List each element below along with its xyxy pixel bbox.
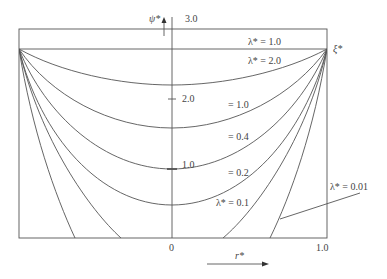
x-tick-1: 1.0 (316, 243, 329, 253)
y-tick-3: 3.0 (185, 14, 198, 24)
label-lambda-2.0: λ* = 2.0 (248, 56, 281, 66)
y-axis-label: ψ* (149, 14, 160, 24)
y-tick-2: 2.0 (182, 94, 195, 104)
curve-lambda-0.01 (19, 49, 327, 238)
x-tick-0: 0 (169, 243, 174, 253)
y-tick-1: 1.0 (182, 160, 195, 170)
r-arrow-head (262, 262, 269, 267)
curve-lambda-0.1 (19, 49, 327, 238)
label-lambda-eq-1.0: = 1.0 (228, 100, 249, 110)
curve-lambda-0.2 (19, 49, 327, 205)
psi-arrow-head (162, 17, 167, 23)
label-lambda-0.2: = 0.2 (228, 168, 249, 178)
label-lambda-0.4: = 0.4 (228, 132, 249, 142)
curve-lambda-0.4 (19, 49, 327, 169)
label-lambda-0.01: λ* = 0.01 (330, 182, 368, 192)
label-lambda-1.0: λ* = 1.0 (248, 37, 281, 47)
xi-label: ξ* (333, 44, 342, 54)
diagram-canvas (0, 0, 387, 279)
label-lambda-0.1: λ* = 0.1 (216, 198, 249, 208)
x-axis-label: r* (235, 251, 244, 261)
leader-line (280, 193, 360, 219)
